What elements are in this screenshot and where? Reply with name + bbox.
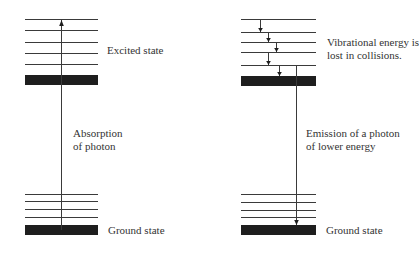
emission-arrow-head-icon	[294, 220, 299, 225]
relaxation-arrow-head-icon	[258, 28, 263, 32]
right-ground-state-levels	[241, 195, 316, 236]
left-ground-state-label: Ground state	[108, 224, 165, 237]
right-ground-state-label: Ground state	[326, 224, 383, 237]
emission-arrow-icon	[294, 65, 299, 225]
emission-label-line2: of lower energy	[306, 140, 400, 153]
absorption-arrow-head-icon	[59, 20, 64, 26]
right-excited-base-level-bar	[241, 76, 316, 86]
emission-label: Emission of a photon of lower energy	[306, 127, 400, 152]
relaxation-arrow-head-icon	[266, 61, 271, 65]
absorption-label-line1: Absorption	[73, 127, 123, 140]
relaxation-arrow-head-icon	[277, 72, 282, 76]
vibrational-label-line1: Vibrational energy is	[327, 36, 419, 49]
vibrational-energy-label: Vibrational energy is lost in collisions…	[327, 36, 419, 61]
absorption-label: Absorption of photon	[73, 127, 123, 152]
absorption-label-line2: of photon	[73, 140, 123, 153]
right-excited-state-levels	[241, 20, 316, 87]
emission-label-line1: Emission of a photon	[306, 127, 400, 140]
relaxation-arrow-head-icon	[266, 38, 271, 42]
relaxation-arrow-head-icon	[274, 48, 279, 52]
absorption-arrow-icon	[59, 20, 64, 230]
vibrational-label-line2: lost in collisions.	[327, 49, 419, 62]
left-excited-state-label: Excited state	[107, 44, 164, 57]
vibrational-relaxation-arrows-icon	[258, 19, 282, 76]
right-ground-base-level-bar	[241, 225, 316, 235]
